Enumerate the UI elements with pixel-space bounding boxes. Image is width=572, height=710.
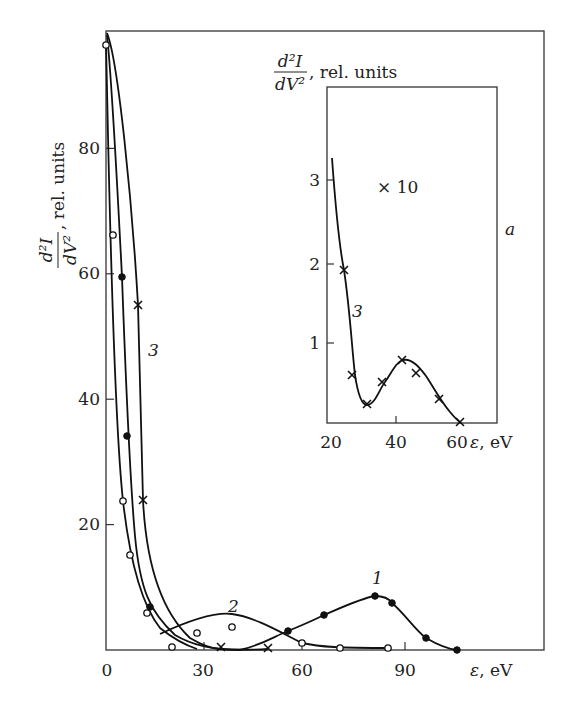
inset-ylabel-suffix: , rel. units: [309, 62, 397, 82]
inset-xtick-20: 20: [320, 432, 342, 452]
inset-plot-frame: [327, 87, 497, 423]
main-ytick-80: 80: [78, 138, 100, 158]
panel-label: a: [505, 219, 515, 239]
main-ytick-20: 20: [78, 514, 100, 534]
main-ytick-40: 40: [78, 389, 100, 409]
inset-ylabel-denominator: dV²: [275, 74, 305, 94]
inset-curve-label-3: 3: [352, 301, 363, 321]
inset-scale-note: × 10: [377, 177, 418, 197]
main-x-axis-label: ε, eV: [470, 660, 513, 680]
inset-xtick-40: 40: [385, 432, 407, 452]
main-ylabel-numerator: d²I: [36, 238, 56, 263]
main-xtick-0: 0: [102, 660, 113, 680]
main-ylabel-denominator: dV²: [60, 235, 80, 265]
main-curve-label-3: 3: [148, 340, 159, 360]
inset-ytick-1: 1: [309, 333, 320, 353]
main-y-axis-label: d²I dV² , rel. units: [36, 142, 80, 268]
inset-ytick-2: 2: [309, 254, 320, 274]
inset-xtick-60: 60: [446, 432, 468, 452]
figure: 20 40 60 80 0 30 60 90 ε, eV d²I dV² , r…: [0, 0, 572, 710]
main-ytick-60: 60: [78, 263, 100, 283]
inset-ytick-3: 3: [309, 170, 320, 190]
main-curve-label-2: 2: [227, 596, 239, 616]
main-xtick-90: 90: [394, 660, 416, 680]
inset-ylabel-numerator: d²I: [278, 51, 303, 71]
main-x-unit: , eV: [479, 660, 513, 680]
inset-x-axis-label: ε, eV: [470, 432, 513, 452]
main-xtick-30: 30: [192, 660, 214, 680]
main-curve-label-1: 1: [372, 568, 383, 588]
main-ylabel-suffix: , rel. units: [48, 142, 68, 230]
main-xtick-60: 60: [291, 660, 313, 680]
